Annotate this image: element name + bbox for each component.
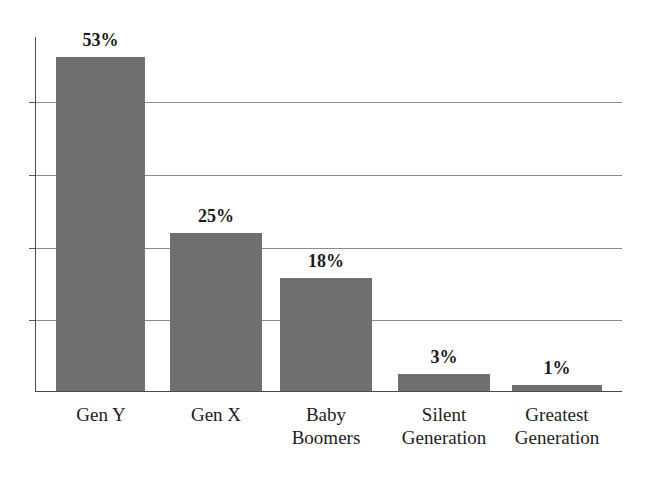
bar-greatest-generation[interactable] [512,385,602,391]
bar-silent-generation[interactable] [398,374,490,391]
bar-chart: 53% 25% 18% 3% 1% Gen Y Gen X Baby Boome… [0,0,655,483]
bar-baby-boomers[interactable] [280,278,372,391]
bar-value-gen-x: 25% [170,206,262,227]
bar-value-gen-y: 53% [56,30,145,51]
x-label-greatest-generation: Greatest Generation [495,403,619,449]
bar-gen-x[interactable] [170,233,262,391]
x-label-gen-x: Gen X [161,403,271,426]
x-label-baby-boomers: Baby Boomers [271,403,381,449]
bar-value-silent-generation: 3% [398,347,490,368]
x-label-silent-generation: Silent Generation [382,403,506,449]
x-label-gen-y: Gen Y [46,403,156,426]
bar-value-baby-boomers: 18% [280,251,372,272]
bar-gen-y[interactable] [56,57,145,391]
bar-value-greatest-generation: 1% [512,358,602,379]
